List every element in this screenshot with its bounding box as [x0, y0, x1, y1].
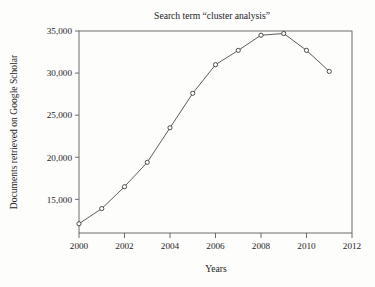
- x-axis-tick-label: 2002: [115, 241, 134, 251]
- x-axis-tick-label: 2008: [252, 241, 271, 251]
- x-axis-tick-label: 2000: [70, 241, 89, 251]
- series-data-point: [77, 222, 81, 226]
- x-axis-tick-label: 2012: [343, 241, 362, 251]
- series-data-point: [145, 160, 149, 164]
- y-axis-tick-label: 15,000: [47, 195, 73, 205]
- chart-title: Search term “cluster analysis”: [154, 10, 270, 21]
- line-chart-figure: Search term “cluster analysis” Documents…: [0, 0, 375, 287]
- y-axis-tick-label: 25,000: [47, 110, 73, 120]
- series-data-point: [168, 126, 172, 130]
- y-axis-tick-label: 30,000: [47, 68, 73, 78]
- y-axis-tick-label: 35,000: [47, 26, 73, 36]
- y-axis-tick-label-group: 15,00020,00025,00030,00035,000: [47, 26, 73, 204]
- series-data-point: [191, 91, 195, 95]
- plot-frame: [79, 31, 352, 233]
- y-axis-tick-label: 20,000: [47, 153, 73, 163]
- x-axis-tick-label: 2006: [206, 241, 225, 251]
- series-marker-group: [77, 31, 331, 225]
- x-axis-tick-label: 2010: [297, 241, 316, 251]
- series-data-point: [100, 206, 104, 210]
- series-data-point: [236, 48, 240, 52]
- x-axis-tick-label-group: 2000200220042006200820102012: [70, 241, 362, 251]
- chart-canvas: Search term “cluster analysis” Documents…: [0, 0, 375, 287]
- x-axis-title: Years: [205, 263, 227, 274]
- y-axis-tick-group: [75, 31, 79, 199]
- series-data-point: [259, 33, 263, 37]
- y-axis-title: Documents retrieved on Google Scholar: [8, 54, 19, 209]
- x-axis-tick-group: [79, 233, 352, 238]
- chart-page: Search term “cluster analysis” Documents…: [0, 0, 375, 287]
- series-data-point: [304, 48, 308, 52]
- series-line-path: [79, 34, 329, 224]
- x-axis-tick-label: 2004: [161, 241, 180, 251]
- series-data-point: [327, 69, 331, 73]
- series-data-point: [213, 63, 217, 67]
- series-data-point: [282, 31, 286, 35]
- series-data-point: [122, 185, 126, 189]
